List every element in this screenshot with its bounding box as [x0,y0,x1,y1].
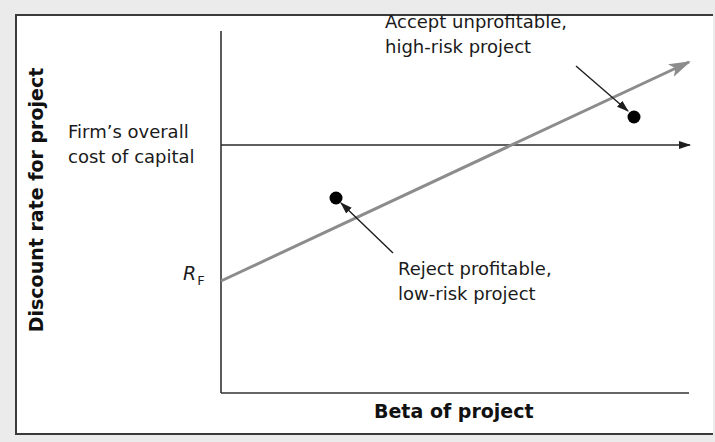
accept-annotation-line2: high-risk project [385,34,567,59]
accept-annotation-line1: Accept unprofitable, [385,9,567,34]
risk-free-rate-symbol: R [183,262,196,284]
risk-free-rate-subscript: F [197,273,204,288]
x-axis-label: Beta of project [374,398,534,424]
risk-free-rate-label: RF [183,262,205,284]
reject-annotation-line1: Reject profitable, [398,256,552,281]
diagram-stage: Discount rate for project Beta of projec… [0,0,715,442]
reject-annotation: Reject profitable, low-risk project [398,256,552,306]
cost-of-capital-label: Firm’s overall cost of capital [68,119,195,169]
reject-annotation-line2: low-risk project [398,281,552,306]
cost-of-capital-label-line2: cost of capital [68,144,195,169]
reject-callout-arrow [341,203,393,253]
cost-of-capital-label-line1: Firm’s overall [68,119,195,144]
accept-annotation: Accept unprofitable, high-risk project [385,9,567,59]
diagram-canvas [0,0,715,442]
security-market-line [221,62,689,281]
reject-project-point [330,192,343,205]
y-axis-label-text: Discount rate for project [24,68,48,333]
accept-project-point [628,111,641,124]
